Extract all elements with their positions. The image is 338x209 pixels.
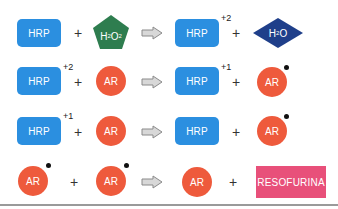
hrp-box: HRP bbox=[175, 117, 219, 145]
ar-label: AR bbox=[265, 126, 279, 137]
radical-dot bbox=[284, 114, 289, 119]
plus-sign: + bbox=[72, 125, 84, 139]
charge-label: +1 bbox=[63, 111, 73, 121]
h2o-diamond: H2O bbox=[252, 17, 304, 49]
ar-circle: AR bbox=[96, 116, 126, 146]
charge-label: +1 bbox=[221, 62, 231, 72]
charge-label: +2 bbox=[63, 62, 73, 72]
plus-sign: + bbox=[230, 26, 242, 40]
hrp-box: HRP bbox=[175, 19, 219, 47]
bottom-divider bbox=[0, 204, 338, 206]
ar-circle: AR bbox=[96, 66, 126, 96]
resofurina-label: RESOFURINA bbox=[257, 177, 325, 188]
ar-label: AR bbox=[26, 176, 40, 187]
hrp-box: HRP bbox=[17, 67, 61, 95]
ar-label: AR bbox=[104, 176, 118, 187]
resofurina-box: RESOFURINA bbox=[256, 166, 326, 198]
right-arrow-icon bbox=[141, 26, 163, 40]
o-label: O bbox=[111, 31, 119, 42]
plus-sign: + bbox=[72, 75, 84, 89]
right-arrow-icon bbox=[141, 175, 163, 189]
radical-dot bbox=[284, 65, 289, 70]
hrp-label: HRP bbox=[28, 126, 50, 137]
ar-label: AR bbox=[104, 76, 118, 87]
ar-label: AR bbox=[104, 126, 118, 137]
ar-circle: AR bbox=[182, 167, 212, 197]
charge-label: +2 bbox=[221, 13, 231, 23]
ar-label: AR bbox=[190, 177, 204, 188]
hrp-label: HRP bbox=[28, 28, 50, 39]
radical-dot bbox=[124, 163, 129, 168]
ar-circle: AR bbox=[96, 166, 126, 196]
plus-sign: + bbox=[230, 125, 242, 139]
hrp-box: HRP bbox=[17, 117, 61, 145]
ar-label: AR bbox=[265, 77, 279, 88]
hrp-label: HRP bbox=[186, 76, 208, 87]
o-label: O bbox=[279, 28, 287, 39]
plus-sign: + bbox=[72, 26, 84, 40]
ar-circle: AR bbox=[18, 166, 48, 196]
subscript: 2 bbox=[119, 33, 122, 39]
hrp-label: HRP bbox=[186, 28, 208, 39]
ar-circle: AR bbox=[257, 116, 287, 146]
right-arrow-icon bbox=[141, 75, 163, 89]
right-arrow-icon bbox=[141, 125, 163, 139]
ar-circle: AR bbox=[257, 67, 287, 97]
h2o2-pentagon: H2O2 bbox=[92, 14, 130, 50]
plus-sign: + bbox=[227, 175, 239, 189]
plus-sign: + bbox=[230, 75, 242, 89]
h-label: H bbox=[100, 31, 107, 42]
hrp-box: HRP bbox=[175, 67, 219, 95]
hrp-label: HRP bbox=[28, 76, 50, 87]
radical-dot bbox=[46, 163, 51, 168]
hrp-box: HRP bbox=[17, 19, 61, 47]
plus-sign: + bbox=[68, 175, 80, 189]
hrp-label: HRP bbox=[186, 126, 208, 137]
h-label: H bbox=[269, 28, 276, 39]
